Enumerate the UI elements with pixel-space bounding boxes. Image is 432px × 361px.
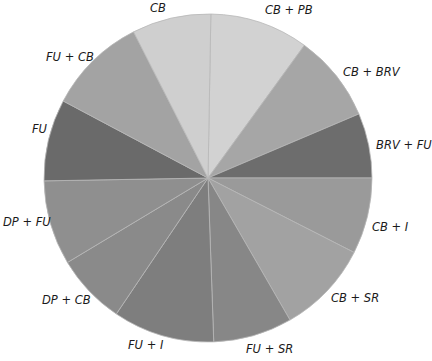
slice-label: CB + PB bbox=[265, 5, 313, 17]
slice-label: CB + I bbox=[372, 222, 408, 234]
slice-label: FU + CB bbox=[46, 52, 94, 64]
slice-label: CB + SR bbox=[331, 293, 379, 305]
slice-label: FU + SR bbox=[246, 344, 293, 356]
slice-label: FU + I bbox=[128, 340, 163, 352]
slice-label: DP + FU bbox=[3, 217, 51, 229]
slice-label: DP + CB bbox=[42, 295, 91, 307]
slice-label: CB bbox=[150, 3, 166, 15]
slice-label: BRV + FU bbox=[376, 140, 432, 152]
slice-label: FU bbox=[32, 124, 47, 136]
slice-label: CB + BRV bbox=[343, 67, 400, 79]
